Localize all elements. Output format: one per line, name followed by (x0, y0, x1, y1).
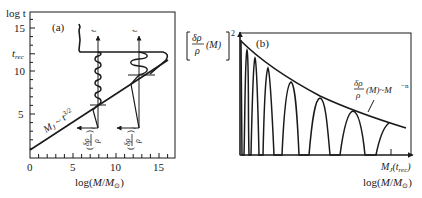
envelope-label-leader (368, 100, 374, 112)
time-arrow-left-label: t (89, 29, 98, 32)
panel-a-y-tick-15: 15 (14, 22, 26, 34)
initial-amplitude-label-left: ( δρ ρ ) i (82, 127, 101, 150)
svg-text:−n: −n (401, 82, 409, 90)
panel-a-x-axis-label: log(M/M⊙) (75, 176, 124, 190)
envelope-label: δρ ρ (M)~M −n (354, 78, 409, 100)
power-oscillation (241, 40, 389, 155)
svg-text:(: ( (84, 147, 94, 150)
panel-a-label: (a) (52, 21, 65, 34)
panel-a-x-tick-0: 0 (27, 161, 33, 173)
time-arrow-right-label: t (130, 29, 139, 32)
svg-text:(: ( (125, 147, 135, 150)
svg-text:(M)~M: (M)~M (366, 85, 392, 95)
panel-a-y-axis-label: log t (6, 7, 26, 19)
svg-text:δρ: δρ (354, 78, 363, 88)
panel-b-label: (b) (256, 37, 269, 50)
svg-text:δρ: δρ (123, 138, 132, 146)
growth-right (131, 75, 139, 128)
panel-a-y-tick-5: 5 (18, 108, 24, 120)
panel-b-y-axis-label: δρ ρ (M) 2 (187, 29, 235, 60)
panel-a-x-tick-10: 10 (110, 161, 122, 173)
growth-left (93, 105, 98, 128)
svg-text:ρ: ρ (355, 90, 361, 100)
panel-a-x-tick-5: 5 (70, 161, 76, 173)
svg-text:ρ: ρ (133, 139, 142, 144)
panel-b-mj-tick-label: MJ(trec) (380, 161, 411, 174)
panel-a-x-tick-15: 15 (153, 161, 165, 173)
initial-amplitude-label-right: ( δρ ρ ) i (123, 127, 142, 150)
panel-b-x-axis-label: log(M/M⊙) (363, 176, 412, 190)
svg-text:δρ: δρ (192, 32, 202, 43)
svg-text:): ) (125, 130, 135, 133)
svg-text:ρ: ρ (92, 139, 101, 144)
svg-text:i: i (90, 127, 96, 129)
panel-a-y-ticks (30, 19, 35, 148)
panel-a-x-ticks (39, 153, 168, 158)
svg-text:ρ: ρ (194, 45, 200, 56)
figure-canvas: log t 15 trec 10 5 0 5 10 15 log(M/M⊙) (… (0, 0, 422, 198)
panel-b: (b) δρ ρ (M) 2 δρ ρ (M)~M −n MJ(trec) lo… (187, 29, 413, 190)
svg-text:(M): (M) (206, 39, 222, 51)
panel-a: log t 15 trec 10 5 0 5 10 15 log(M/M⊙) (… (6, 7, 175, 190)
panel-a-y-tick-10: 10 (14, 65, 26, 77)
panel-a-y-tick-trec: trec (12, 47, 25, 61)
svg-text:i: i (131, 127, 137, 129)
svg-text:δρ: δρ (82, 138, 91, 146)
svg-text:): ) (84, 130, 94, 133)
svg-text:2: 2 (231, 29, 235, 38)
